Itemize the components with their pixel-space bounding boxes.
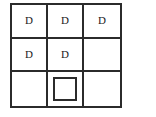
grid-cell-r1c3[interactable]: D <box>84 5 120 39</box>
cell-label-r1c2: D <box>61 15 69 26</box>
grid-cell-r2c2[interactable]: D <box>48 39 84 73</box>
grid-cell-r3c3[interactable] <box>84 72 120 106</box>
cell-label-r2c1: D <box>25 49 33 60</box>
diagram-canvas: D D D D D <box>0 0 156 117</box>
cell-label-r1c1: D <box>25 15 33 26</box>
inner-square-shape <box>53 77 77 101</box>
cell-label-r2c2: D <box>61 49 69 60</box>
grid-cell-r1c2[interactable]: D <box>48 5 84 39</box>
grid-3x3: D D D D D <box>10 3 122 108</box>
grid-cell-r2c1[interactable]: D <box>12 39 48 73</box>
cell-label-r1c3: D <box>98 15 106 26</box>
grid-cell-r3c2[interactable] <box>48 72 84 106</box>
grid-cell-r1c1[interactable]: D <box>12 5 48 39</box>
grid-cell-r2c3[interactable] <box>84 39 120 73</box>
grid-cell-r3c1[interactable] <box>12 72 48 106</box>
